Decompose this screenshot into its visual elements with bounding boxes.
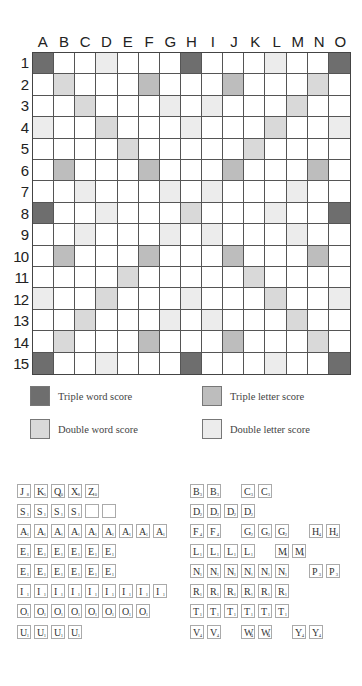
tile-u: U1 <box>51 625 65 639</box>
board-cell-f9 <box>139 224 160 245</box>
board-cell-d2 <box>96 74 117 95</box>
board-cell-k14 <box>244 331 265 352</box>
tile-letter: E <box>54 545 60 558</box>
board-cell-c9-double-letter <box>75 224 96 245</box>
tile-s: S1 <box>68 504 82 518</box>
tile-a: A1 <box>85 524 99 538</box>
tile-p: P3 <box>326 564 340 578</box>
tile-a: A1 <box>51 524 65 538</box>
board-cell-g6 <box>160 160 181 181</box>
board-cell-h7 <box>181 181 202 202</box>
board-cell-e13 <box>118 310 139 331</box>
board-cell-j2-triple-letter <box>223 74 244 95</box>
board-cell-m8 <box>287 203 308 224</box>
board-cell-m15 <box>287 353 308 374</box>
board-cell-d7 <box>96 181 117 202</box>
board-cell-e10 <box>118 246 139 267</box>
tile-d: D2 <box>190 504 204 518</box>
board-cell-c2 <box>75 74 96 95</box>
tile-i: I1 <box>102 584 116 598</box>
tile-e: E1 <box>85 564 99 578</box>
legend-label: Double letter score <box>230 424 310 435</box>
board-cell-j8 <box>223 203 244 224</box>
board-cell-f2-triple-letter <box>139 74 160 95</box>
tile-a: A1 <box>34 524 48 538</box>
tile-f: F4 <box>207 524 221 538</box>
tile-letter: R <box>227 585 234 598</box>
board-cell-b15 <box>54 353 75 374</box>
board-cell-d6 <box>96 160 117 181</box>
tile-value: 3 <box>319 572 321 577</box>
board-cell-n12 <box>308 288 329 309</box>
tile-value: 1 <box>217 552 219 557</box>
tile-value: 2 <box>200 512 202 517</box>
tile-row: U1U1U1U1 <box>17 625 85 641</box>
board-cell-h11 <box>181 267 202 288</box>
board-cell-e12 <box>118 288 139 309</box>
column-label-n: N <box>308 34 329 50</box>
tile-value: 1 <box>251 592 253 597</box>
tile-value: 1 <box>234 612 236 617</box>
board-cell-l3 <box>265 96 286 117</box>
tile-letter: R <box>278 585 285 598</box>
tile-letter: I <box>139 585 142 598</box>
board-cell-o11 <box>329 267 350 288</box>
tile-z: Z10 <box>85 484 99 498</box>
row-label-11: 11 <box>4 267 28 289</box>
column-label-a: A <box>32 34 53 50</box>
board-cell-m9-double-letter <box>287 224 308 245</box>
board-cell-f13 <box>139 310 160 331</box>
tile-n: N1 <box>258 564 272 578</box>
tile-letter: J <box>20 485 24 498</box>
column-label-m: M <box>287 34 308 50</box>
board-cell-k6 <box>244 160 265 181</box>
tile-row: O1O1O1O1O1O1O1O1 <box>17 604 153 620</box>
tile-letter: I <box>37 585 40 598</box>
board-cell-b4 <box>54 117 75 138</box>
tile-value: 1 <box>27 612 29 617</box>
board-cell-k15 <box>244 353 265 374</box>
tile-e: E1 <box>51 544 65 558</box>
board-cell-n15 <box>308 353 329 374</box>
tile-e: E1 <box>85 544 99 558</box>
board-cell-g13-double-letter <box>160 310 181 331</box>
tile-w: W4 <box>258 625 272 639</box>
board-cell-k10 <box>244 246 265 267</box>
tile-n: N1 <box>190 564 204 578</box>
tile-d: D2 <box>224 504 238 518</box>
tile-letter: F <box>210 525 216 538</box>
tile-g: G2 <box>241 524 255 538</box>
tile-a: A1 <box>119 524 133 538</box>
tile-letter: I <box>156 585 159 598</box>
board-cell-k12 <box>244 288 265 309</box>
board-cell-n3 <box>308 96 329 117</box>
board-cell-o9 <box>329 224 350 245</box>
board-cell-l10 <box>265 246 286 267</box>
tile-letter: F <box>193 525 199 538</box>
board-cell-a14 <box>33 331 54 352</box>
tile-a: A1 <box>136 524 150 538</box>
board-cell-n7 <box>308 181 329 202</box>
board-cell-l7 <box>265 181 286 202</box>
board-cell-g15 <box>160 353 181 374</box>
tile-o: O1 <box>17 604 31 618</box>
board-cell-d15-double-letter <box>96 353 117 374</box>
tile-value: 1 <box>61 633 63 638</box>
tile-u: U1 <box>17 625 31 639</box>
legend: Triple word score Triple letter score Do… <box>30 386 350 446</box>
column-label-i: I <box>202 34 223 50</box>
board-cell-h2 <box>181 74 202 95</box>
board-cell-h12-double-letter <box>181 288 202 309</box>
tile-e: E1 <box>34 564 48 578</box>
board-cell-n10-triple-letter <box>308 246 329 267</box>
board-cell-h13 <box>181 310 202 331</box>
board-cell-c6 <box>75 160 96 181</box>
tile-value: 1 <box>234 552 236 557</box>
board-cell-i4 <box>202 117 223 138</box>
tile-d: D2 <box>241 504 255 518</box>
board-cell-k13 <box>244 310 265 331</box>
board-cell-k9 <box>244 224 265 245</box>
tile-row: B3B3C3C3 <box>190 484 275 500</box>
board-cell-a6 <box>33 160 54 181</box>
tile-value: 3 <box>251 492 253 497</box>
